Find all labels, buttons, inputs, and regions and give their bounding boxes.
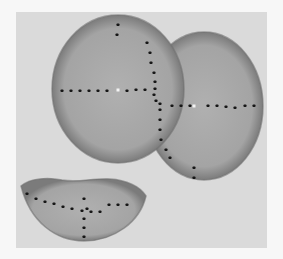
marker-dot xyxy=(244,105,247,108)
marker-dot xyxy=(108,204,111,207)
marker-dot xyxy=(153,94,156,97)
marker-dot xyxy=(35,198,38,201)
marker-dot xyxy=(189,105,192,108)
marker-dot xyxy=(62,206,65,209)
marker-dot xyxy=(193,177,196,180)
marker-dot xyxy=(83,236,86,239)
marker-dot xyxy=(159,109,162,112)
marker-dot xyxy=(99,211,102,214)
marker-dot xyxy=(144,89,147,92)
marker-dot xyxy=(171,105,174,108)
cell-division-figure xyxy=(0,0,283,259)
marker-dot xyxy=(159,129,162,132)
marker-dot xyxy=(88,90,91,93)
marker-dot xyxy=(234,107,237,110)
marker-dot xyxy=(216,105,219,108)
marker-dot xyxy=(53,203,56,206)
marker-dot xyxy=(83,227,86,230)
marker-dot xyxy=(169,157,172,160)
marker-dot xyxy=(81,210,84,213)
marker-dot xyxy=(150,62,153,65)
marker-dot xyxy=(70,90,73,93)
marker-dot xyxy=(44,201,47,204)
marker-dot xyxy=(83,198,86,201)
marker-dot xyxy=(79,90,82,93)
marker-dot xyxy=(26,193,29,196)
marker-dot xyxy=(149,52,152,55)
marker-dot xyxy=(117,24,120,27)
marker-dot xyxy=(116,34,119,37)
marker-dot xyxy=(155,100,158,103)
marker-dot xyxy=(193,167,196,170)
marker-dot xyxy=(160,139,163,142)
marker-dot xyxy=(165,149,168,152)
marker-dot xyxy=(106,90,109,93)
marker-dot xyxy=(86,208,89,211)
marker-dot xyxy=(83,218,86,221)
marker-dot xyxy=(71,208,74,211)
marker-dot xyxy=(90,211,93,214)
marker-dot xyxy=(159,119,162,122)
marker-dot xyxy=(180,105,183,108)
marker-dot xyxy=(117,204,120,207)
marker-dot xyxy=(126,90,129,93)
marker-dot xyxy=(225,106,228,109)
marker-dot xyxy=(207,105,210,108)
marker-dot xyxy=(126,204,129,207)
marker-dot xyxy=(153,72,156,75)
marker-dot xyxy=(135,89,138,92)
marker-dot xyxy=(159,103,162,106)
marker-dot xyxy=(253,105,256,108)
marker-dot xyxy=(97,90,100,93)
marker-dot xyxy=(154,81,157,84)
marker-dot xyxy=(146,42,149,45)
center-point-dot xyxy=(193,105,196,108)
marker-dot xyxy=(61,90,64,93)
center-point-dot xyxy=(117,89,120,92)
marker-dot xyxy=(154,88,157,91)
